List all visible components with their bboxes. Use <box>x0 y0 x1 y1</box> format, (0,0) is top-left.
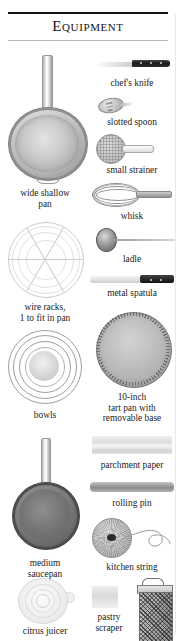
nested-bowls-icon <box>8 330 84 406</box>
tart-pan-icon <box>94 310 174 390</box>
citrus-juicer-icon <box>18 578 80 626</box>
caption-slotted-spoon: slotted spoon <box>88 117 176 128</box>
header-rule-top <box>8 12 168 14</box>
whisk-icon <box>92 182 176 208</box>
caption-tart-pan: 10-inch tart pan with removable base <box>88 392 176 424</box>
slotted-spoon-icon <box>98 96 158 114</box>
caption-ladle: ladle <box>88 254 176 265</box>
strainer-icon <box>96 134 174 164</box>
caption-wide-shallow-pan: wide shallow pan <box>0 188 90 209</box>
skillet-icon <box>6 55 88 185</box>
string-ball-icon <box>92 516 172 558</box>
caption-medium-saucepan: medium saucepan <box>0 558 90 579</box>
caption-parchment-paper: parchment paper <box>88 460 176 471</box>
pastry-scraper-icon <box>92 586 118 608</box>
parchment-icon <box>92 436 172 454</box>
ladle-icon <box>96 228 176 252</box>
caption-citrus-juicer: citrus juicer <box>0 626 90 637</box>
caption-kitchen-string: kitchen string <box>88 562 176 573</box>
page-title: Equipment <box>0 16 176 36</box>
caption-pastry-scraper: pastry scraper <box>82 612 136 633</box>
chefs-knife-icon <box>96 58 172 72</box>
caption-whisk: whisk <box>88 211 176 222</box>
saucepan-icon <box>12 438 84 554</box>
box-grater-icon <box>136 578 176 641</box>
spatula-icon <box>90 274 176 286</box>
caption-wire-racks: wire racks, 1 to fit in pan <box>0 302 90 323</box>
header-rule-bottom <box>8 40 168 41</box>
caption-rolling-pin: rolling pin <box>88 498 176 509</box>
caption-small-strainer: small strainer <box>88 165 176 176</box>
string-thread-icon <box>92 516 172 558</box>
caption-bowls: bowls <box>0 410 90 421</box>
wire-rack-icon <box>8 222 84 298</box>
caption-metal-spatula: metal spatula <box>88 288 176 299</box>
rolling-pin-icon <box>90 482 174 492</box>
page-edge-divider <box>175 14 176 634</box>
equipment-page: Equipment wide shallow pan chef's knife … <box>0 0 176 641</box>
caption-chefs-knife: chef's knife <box>88 78 176 89</box>
